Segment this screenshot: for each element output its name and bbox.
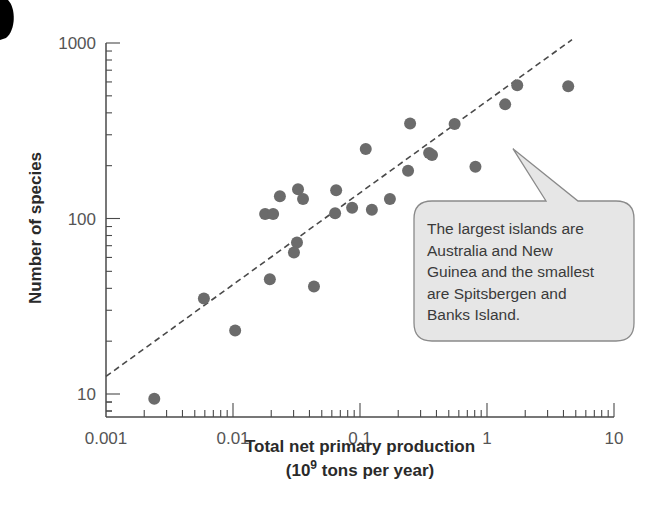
data-point [198, 293, 210, 305]
data-point [366, 204, 378, 216]
data-point [562, 80, 574, 92]
data-point [404, 117, 416, 129]
callout: The largest islands areAustralia and New… [414, 149, 634, 341]
x-tick-label: 1 [482, 429, 491, 448]
data-point [449, 118, 461, 130]
data-point [360, 143, 372, 155]
callout-line: are Spitsbergen and [427, 285, 567, 302]
y-tick-label: 100 [68, 210, 96, 229]
data-point [274, 190, 286, 202]
callout-line: Banks Island. [427, 306, 520, 323]
data-point [499, 98, 511, 110]
y-tick-label: 1000 [58, 34, 96, 53]
data-point [297, 193, 309, 205]
scatter-chart: 0.0010.010.1110101001000 The largest isl… [0, 0, 665, 520]
data-point [330, 184, 342, 196]
data-point [346, 202, 358, 214]
data-point [267, 208, 279, 220]
page-edge-blob [0, 0, 14, 40]
data-point [264, 273, 276, 285]
y-tick-label: 10 [77, 385, 96, 404]
y-axis-title: Number of species [26, 152, 45, 304]
x-axis-units: (109 tons per year) [286, 458, 434, 480]
data-point [308, 280, 320, 292]
data-point [469, 161, 481, 173]
x-tick-label: 10 [605, 429, 624, 448]
x-axis-title: Total net primary production [245, 437, 475, 456]
callout-line: Australia and New [427, 242, 554, 259]
data-point [329, 207, 341, 219]
data-point [288, 247, 300, 259]
data-point [511, 79, 523, 91]
data-point [384, 193, 396, 205]
callout-line: Guinea and the smallest [427, 263, 595, 280]
data-point [426, 149, 438, 161]
data-point [148, 393, 160, 405]
x-tick-label: 0.001 [85, 429, 128, 448]
data-point [402, 165, 414, 177]
callout-line: The largest islands are [427, 220, 584, 237]
data-point [229, 325, 241, 337]
